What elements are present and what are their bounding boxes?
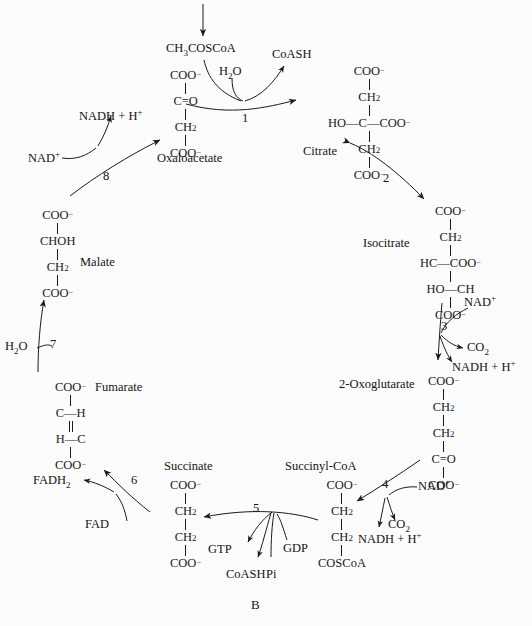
acetyl-coa-label: CH3COSCoACH3COSCoA xyxy=(166,42,236,55)
isocitrate-line-2: HC—COO⁻ xyxy=(420,256,481,271)
succinyl-coa-line-3: COSCoA xyxy=(318,556,366,571)
oxoglutarate-line-1: CH2 xyxy=(433,400,455,415)
step-5-pi-curve xyxy=(271,513,274,557)
step-8-number: 8 xyxy=(103,170,109,183)
oxaloacetate-line-2: CH2 xyxy=(175,120,197,135)
gdp-step5-label: GDP xyxy=(283,542,308,555)
step-5-gtp-curve xyxy=(248,512,272,542)
malate-line-3: COO⁻ xyxy=(42,286,73,301)
nadh-step8-label: NADH + H+ xyxy=(79,110,143,123)
step-4-number: 4 xyxy=(382,478,388,491)
succinate-structure: COO⁻ CH2 CH2 COO⁻ xyxy=(170,478,201,571)
step-7-main-arrow xyxy=(38,300,44,372)
oxaloacetate-line-0: COO⁻ xyxy=(170,68,201,83)
step-4-nad-curve xyxy=(389,487,417,495)
step-4-main-arrow xyxy=(357,460,420,501)
citrate-line-1: CH2 xyxy=(358,90,380,105)
oxoglutarate-line-0: COO⁻ xyxy=(428,374,459,389)
citrate-line-2: HO—C—COO⁻ xyxy=(328,116,411,131)
coash-step1-label: CoASH xyxy=(272,48,312,61)
step-7-number: 7 xyxy=(50,338,56,351)
step-6-number: 6 xyxy=(131,474,137,487)
isocitrate-line-1: CH2 xyxy=(440,230,462,245)
isocitrate-line-0: COO⁻ xyxy=(435,204,466,219)
step-8-nad-curve xyxy=(62,148,96,159)
step-1-coash-curve xyxy=(245,66,284,101)
succinate-line-0: COO⁻ xyxy=(170,478,201,493)
step-5-gdp-curve xyxy=(277,514,287,540)
citrate-line-0: COO⁻ xyxy=(354,64,385,79)
citrate-line-3: CH2 xyxy=(358,142,380,157)
step-5-coash-curve xyxy=(258,513,271,557)
isocitrate-label: Isocitrate xyxy=(363,237,410,250)
succinate-line-3: COO⁻ xyxy=(170,556,201,571)
malate-label: Malate xyxy=(80,256,115,269)
citrate-structure: COO⁻ CH2 HO—C—COO⁻ CH2 COO⁻ xyxy=(328,64,411,183)
gtp-step5-label: GTP xyxy=(208,543,232,556)
citrate-line-4: COO⁻ xyxy=(354,168,385,183)
tca-cycle-figure: CH3COSCoACH3COSCoA H2O CoASH 1 2 3 4 5 6… xyxy=(0,0,532,626)
step-8-main-arrow xyxy=(70,140,160,196)
fumarate-label: Fumarate xyxy=(95,381,142,394)
succinyl-coa-label: Succinyl-CoA xyxy=(285,460,357,473)
citrate-label: Citrate xyxy=(303,145,337,158)
succinate-line-1: CH2 xyxy=(175,504,197,519)
fumarate-structure: COO⁻ C—H H—C COO⁻ xyxy=(55,380,86,473)
nad-step3-label: NAD+ xyxy=(464,296,496,309)
fumarate-line-1: C—H xyxy=(56,406,86,421)
oxoglutarate-line-3: C=O xyxy=(431,452,455,467)
step-4-nadh-curve xyxy=(379,498,385,527)
succinate-line-2: CH2 xyxy=(175,530,197,545)
step-6-main-arrow xyxy=(104,470,150,512)
fadh2-step6-label: FADH2 xyxy=(33,474,71,487)
fad-step6-label: FAD xyxy=(85,518,109,531)
succinyl-coa-line-2: CH2 xyxy=(331,530,353,545)
step-5-main-arrow xyxy=(204,512,318,520)
oxoglutarate-structure: COO⁻ CH2 CH2 C=O COO⁻ xyxy=(428,374,459,493)
oxoglutarate-label: 2-Oxoglutarate xyxy=(339,378,415,391)
nad-step8-label: NAD+ xyxy=(28,152,60,165)
step-1-number: 1 xyxy=(242,112,248,125)
succinyl-coa-line-1: CH2 xyxy=(331,504,353,519)
malate-line-1: CHOH xyxy=(40,234,75,249)
nad-step4-label: NAD+ xyxy=(418,480,450,493)
co2-step3-label: CO2 xyxy=(467,341,489,354)
water-step1-label: H2O xyxy=(219,65,242,78)
succinyl-coa-structure: COO⁻ CH2 CH2 COSCoA xyxy=(318,478,366,571)
oxaloacetate-label: Oxaloacetate xyxy=(157,152,222,165)
succinate-label: Succinate xyxy=(164,460,213,473)
malate-line-0: COO⁻ xyxy=(42,208,73,223)
step-1-main-arrow xyxy=(186,100,296,110)
figure-label: B xyxy=(251,598,260,611)
step-6-fadh2-curve xyxy=(84,480,114,492)
nadh-step4-label: NADH + H+ xyxy=(358,533,422,546)
succinyl-coa-line-0: COO⁻ xyxy=(326,478,357,493)
step-6-fad-curve xyxy=(116,494,127,521)
fumarate-double-bond xyxy=(69,421,73,432)
fumarate-line-3: COO⁻ xyxy=(55,458,86,473)
isocitrate-line-4: COO⁻ xyxy=(435,308,466,323)
malate-structure: COO⁻ CHOH CH2 COO⁻ xyxy=(40,208,75,301)
co2-step4-label: CO2 xyxy=(388,518,410,531)
pi-step5-label: Pi xyxy=(266,568,276,581)
oxaloacetate-structure: COO⁻ C=O CH2 COO⁻ xyxy=(170,68,201,161)
step-3-co2-curve xyxy=(441,335,463,348)
malate-line-2: CH2 xyxy=(47,260,69,275)
fumarate-line-2: H—C xyxy=(56,432,86,447)
coash-step5-label: CoASH xyxy=(226,568,266,581)
oxaloacetate-line-1: C=O xyxy=(173,94,197,109)
step-5-number: 5 xyxy=(253,502,259,515)
oxoglutarate-line-2: CH2 xyxy=(433,426,455,441)
fumarate-line-0: COO⁻ xyxy=(55,380,86,395)
water-step7-label: H2O xyxy=(5,340,28,353)
nadh-step3-label: NADH + H+ xyxy=(452,361,516,374)
